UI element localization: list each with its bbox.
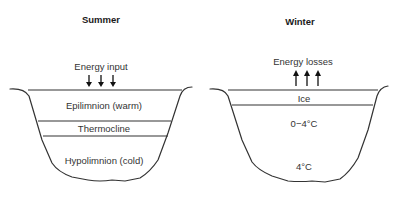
layer-thermocline: Thermocline bbox=[78, 123, 130, 134]
energy-losses-label: Energy losses bbox=[273, 56, 333, 67]
layer-ice: Ice bbox=[298, 93, 311, 104]
summer-title: Summer bbox=[82, 14, 120, 25]
layer-mid-water-temp: 0−4°C bbox=[291, 118, 318, 129]
layer-hypolimnion: Hypolimnion (cold) bbox=[65, 155, 144, 166]
summer-panel: Summer Energy input Epilimnion (warm) Th… bbox=[10, 14, 192, 181]
lake-stratification-diagram: Summer Energy input Epilimnion (warm) Th… bbox=[0, 0, 397, 198]
energy-losses-arrows-icon bbox=[293, 70, 321, 86]
energy-input-label: Energy input bbox=[74, 61, 128, 72]
layer-bottom-water-temp: 4°C bbox=[296, 161, 312, 172]
winter-title: Winter bbox=[285, 16, 315, 27]
energy-input-arrows-icon bbox=[86, 75, 116, 87]
winter-panel: Winter Energy losses Ice 0−4°C 4°C bbox=[210, 16, 388, 182]
layer-epilimnion: Epilimnion (warm) bbox=[66, 100, 142, 111]
